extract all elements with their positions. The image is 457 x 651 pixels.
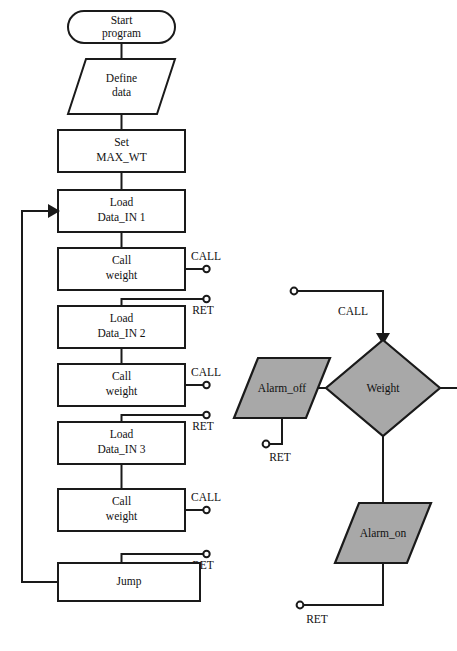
- node-load3-label-line2: Data_IN 3: [97, 443, 145, 455]
- flowchart-page: Start program Define data Set MAX_WT Loa…: [0, 0, 457, 651]
- node-load1-label-line1: Load: [110, 196, 134, 208]
- node-load-3: Load Data_IN 3: [58, 422, 185, 464]
- sub-ret-off-terminal-dot: [263, 441, 270, 448]
- sub-connector-ret-on: RET: [297, 563, 383, 625]
- node-weight-label: Weight: [367, 382, 401, 395]
- node-call1-label-line1: Call: [112, 254, 131, 266]
- node-jump-label: Jump: [117, 575, 142, 588]
- node-define-label-line2: data: [112, 86, 131, 98]
- node-weight-decision: Weight: [326, 340, 440, 436]
- sub-ret-on-terminal-dot: [297, 602, 304, 609]
- sub-ret-on-line: [303, 563, 383, 605]
- node-call2-label-line1: Call: [112, 370, 131, 382]
- connector-call-2-label: CALL: [191, 366, 221, 378]
- node-set-label-line2: MAX_WT: [96, 151, 146, 163]
- node-set-label-line1: Set: [114, 136, 130, 148]
- node-load3-label-line1: Load: [110, 428, 134, 440]
- flowchart-svg: Start program Define data Set MAX_WT Loa…: [0, 0, 457, 651]
- node-define-label-line1: Define: [106, 72, 137, 84]
- node-call-2: Call weight: [58, 364, 185, 406]
- sub-connector-ret-on-label: RET: [306, 613, 328, 625]
- node-jump: Jump: [58, 563, 200, 601]
- sub-call-terminal-dot: [291, 288, 298, 295]
- connector-call-3-label: CALL: [191, 491, 221, 503]
- node-load-1: Load Data_IN 1: [58, 190, 185, 232]
- sub-connector-ret-off: RET: [263, 418, 291, 463]
- node-alarm-off-label: Alarm_off: [258, 382, 307, 394]
- node-start-label-line1: Start: [111, 14, 134, 26]
- ret1-terminal-dot: [203, 296, 209, 302]
- loop-jump-to-load1: [22, 204, 60, 582]
- node-load1-label-line2: Data_IN 1: [97, 211, 145, 223]
- node-call-3: Call weight: [58, 489, 185, 531]
- node-alarm-on: Alarm_on: [335, 503, 431, 563]
- loop-path: [22, 211, 58, 582]
- node-start-label-line2: program: [102, 27, 141, 40]
- connector-ret-2-label: RET: [192, 420, 214, 432]
- connector-call-1-label: CALL: [191, 250, 221, 262]
- node-call3-label-line1: Call: [112, 495, 131, 507]
- node-alarm-on-label: Alarm_on: [360, 527, 407, 539]
- connector-call-1: CALL: [185, 250, 221, 273]
- call3-terminal-dot: [203, 507, 209, 513]
- node-call2-label-line2: weight: [106, 385, 138, 398]
- connector-call-3: CALL: [185, 491, 221, 514]
- connector-call-2: CALL: [185, 366, 221, 389]
- node-call-1: Call weight: [58, 248, 185, 290]
- sub-connector-call: CALL: [291, 288, 390, 345]
- sub-connector-call-label: CALL: [338, 305, 368, 317]
- ret2-terminal-dot: [203, 412, 209, 418]
- node-define-data: Define data: [68, 59, 175, 114]
- call1-terminal-dot: [203, 266, 209, 272]
- ret3-terminal-dot: [203, 551, 209, 557]
- node-call3-label-line2: weight: [106, 510, 138, 523]
- node-set-maxwt: Set MAX_WT: [58, 130, 185, 172]
- node-load-2: Load Data_IN 2: [58, 306, 185, 348]
- sub-ret-off-line: [269, 418, 282, 444]
- node-alarm-off: Alarm_off: [234, 358, 330, 418]
- connector-ret-1-label: RET: [192, 304, 214, 316]
- node-call1-label-line2: weight: [106, 269, 138, 282]
- node-start: Start program: [68, 11, 175, 43]
- node-load2-label-line2: Data_IN 2: [97, 327, 145, 339]
- node-load2-label-line1: Load: [110, 312, 134, 324]
- call2-terminal-dot: [203, 382, 209, 388]
- sub-connector-ret-off-label: RET: [269, 451, 291, 463]
